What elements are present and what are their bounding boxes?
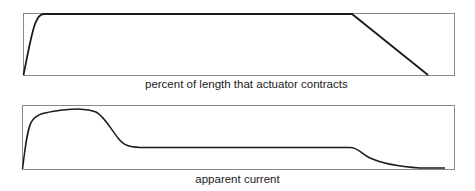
top-chart-line	[24, 14, 429, 75]
charts-canvas	[0, 0, 475, 191]
bottom-chart-caption: apparent current	[195, 173, 280, 185]
top-chart-caption: percent of length that actuator contract…	[145, 78, 335, 90]
bottom-chart-frame	[23, 106, 455, 170]
bottom-chart-line	[23, 109, 446, 169]
